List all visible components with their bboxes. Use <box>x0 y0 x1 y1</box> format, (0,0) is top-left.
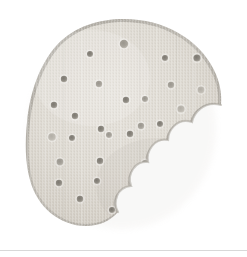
dock-hole <box>51 102 57 108</box>
dock-hole <box>56 180 62 186</box>
dock-hole <box>157 121 163 127</box>
dock-hole <box>138 123 144 129</box>
dock-hole <box>72 113 78 119</box>
dock-hole <box>193 54 200 61</box>
dock-hole <box>61 76 67 82</box>
dock-hole <box>97 158 103 164</box>
bottom-divider <box>0 250 247 251</box>
dock-hole <box>57 159 64 166</box>
dock-hole <box>87 51 93 57</box>
dock-hole <box>177 105 184 112</box>
dock-hole <box>98 126 104 132</box>
dock-hole <box>168 82 174 88</box>
dock-hole <box>69 135 75 141</box>
dock-hole <box>94 178 100 184</box>
dock-hole <box>120 40 128 48</box>
dock-hole <box>123 97 129 103</box>
dock-hole <box>109 207 115 213</box>
dock-hole <box>96 81 102 87</box>
cracker-photograph <box>0 0 247 257</box>
dock-hole <box>127 131 133 137</box>
dock-hole <box>48 133 56 141</box>
dock-hole <box>198 87 205 94</box>
dock-hole <box>142 96 148 102</box>
dock-hole <box>77 196 83 202</box>
dock-hole <box>106 132 112 138</box>
photo-stage: Round cracker with a bite taken out crac… <box>0 0 247 257</box>
dock-hole <box>162 55 168 61</box>
